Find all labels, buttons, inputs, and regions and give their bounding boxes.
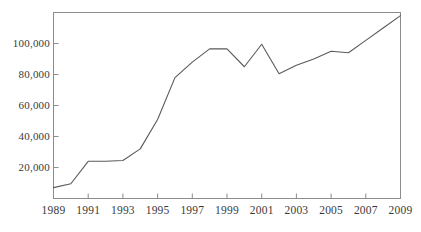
- x-axis-tick-label: 1997: [174, 204, 210, 216]
- x-axis-labels: 1989199119931995199719992001200320052007…: [0, 200, 421, 220]
- chart-figure: 20,00040,00060,00080,000100,000 19891991…: [0, 0, 421, 232]
- x-axis-tick-label: 2001: [244, 204, 280, 216]
- x-axis-tick-label: 2005: [313, 204, 349, 216]
- line-chart-plot: [0, 0, 421, 232]
- x-axis-tick-label: 1995: [140, 204, 176, 216]
- x-axis-tick-label: 1989: [36, 204, 72, 216]
- x-axis-tick-label: 1991: [70, 204, 106, 216]
- y-axis-tick-label: 60,000: [4, 99, 50, 111]
- chart-background: [0, 0, 421, 232]
- x-axis-tick-label: 2009: [383, 204, 419, 216]
- x-axis-tick-label: 1999: [209, 204, 245, 216]
- x-axis-tick-label: 1993: [105, 204, 141, 216]
- x-axis-tick-label: 2007: [348, 204, 384, 216]
- y-axis-tick-label: 20,000: [4, 161, 50, 173]
- y-axis-tick-label: 40,000: [4, 130, 50, 142]
- y-axis-tick-label: 100,000: [4, 37, 50, 49]
- y-axis-tick-label: 80,000: [4, 68, 50, 80]
- y-axis-labels: 20,00040,00060,00080,000100,000: [0, 0, 50, 232]
- x-axis-tick-label: 2003: [278, 204, 314, 216]
